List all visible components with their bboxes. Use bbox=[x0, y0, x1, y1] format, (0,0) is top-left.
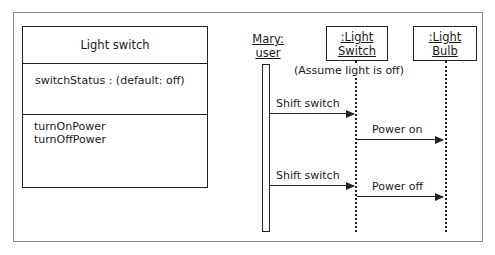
participant-type: user bbox=[250, 46, 286, 60]
method-turn-off-power: turnOffPower bbox=[34, 133, 207, 146]
participant-type: Bulb bbox=[414, 44, 476, 58]
participant-light-switch: :Light Switch bbox=[326, 26, 388, 61]
message-label-shift-switch-1: Shift switch bbox=[276, 97, 340, 110]
class-box-light-switch: Light switch switchStatus : (default: of… bbox=[22, 26, 208, 188]
lifeline-light-bulb bbox=[445, 61, 447, 232]
method-turn-on-power: turnOnPower bbox=[34, 120, 207, 133]
note-assume-light-off: (Assume light is off) bbox=[294, 64, 404, 77]
message-label-power-off: Power off bbox=[372, 180, 423, 193]
class-name: Light switch bbox=[23, 27, 207, 64]
message-arrow-shift-switch-1 bbox=[270, 113, 354, 114]
attribute-switch-status: switchStatus : (default: off) bbox=[35, 74, 207, 87]
participant-light-bulb: :Light Bulb bbox=[413, 26, 477, 61]
participant-mary-user: Mary: user bbox=[250, 32, 286, 60]
message-arrow-power-on bbox=[357, 139, 443, 140]
participant-name: Mary: bbox=[250, 32, 286, 46]
class-methods: turnOnPower turnOffPower bbox=[23, 115, 207, 187]
lifeline-light-switch bbox=[355, 61, 357, 232]
message-arrow-shift-switch-2 bbox=[270, 185, 354, 186]
message-arrow-power-off bbox=[357, 196, 443, 197]
activation-bar-mary bbox=[262, 64, 270, 232]
participant-type: Switch bbox=[327, 44, 387, 58]
participant-name: :Light bbox=[414, 30, 476, 44]
class-attributes: switchStatus : (default: off) bbox=[23, 64, 207, 115]
message-label-power-on: Power on bbox=[372, 123, 422, 136]
message-label-shift-switch-2: Shift switch bbox=[276, 169, 340, 182]
participant-name: :Light bbox=[327, 30, 387, 44]
